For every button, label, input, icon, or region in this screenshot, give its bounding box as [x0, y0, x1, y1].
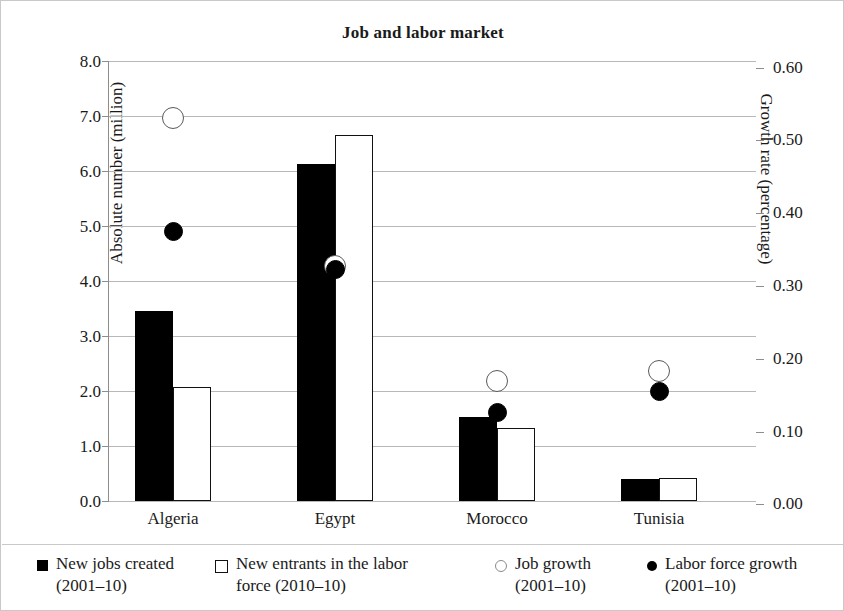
y-axis-tick-label-0: 0.0 [45, 493, 101, 510]
y-axis-tick-label-5: 5.0 [45, 218, 101, 235]
y2-axis-tick-030 [756, 286, 764, 287]
bar-new-jobs-morocco [459, 417, 497, 501]
legend-label-job-growth: Job growth (2001–10) [515, 553, 591, 597]
legend-label-labor-force-growth: Labor force growth (2001–10) [665, 553, 797, 597]
y-axis-tick-0 [102, 501, 109, 502]
y2-axis-tick-label-050: 0.50 [773, 131, 835, 148]
y-axis-tick-5 [102, 226, 109, 227]
y-axis-tick-label-3: 3.0 [45, 328, 101, 345]
gridline-8 [109, 61, 756, 62]
marker-labor-force-growth-morocco [488, 403, 507, 422]
y-axis-tick-label-6: 6.0 [45, 163, 101, 180]
y2-axis-tick-label-020: 0.20 [773, 350, 835, 367]
x-axis-label-tunisia: Tunisia [579, 509, 739, 529]
legend-item-job-growth: Job growth (2001–10) [495, 553, 591, 597]
x-axis-label-morocco: Morocco [417, 509, 577, 529]
x-axis-label-algeria: Algeria [93, 509, 253, 529]
y-axis-tick-6 [102, 171, 109, 172]
y-axis-tick-3 [102, 336, 109, 337]
legend-label-line2: (2001–10) [56, 576, 127, 595]
bar-new-entrants-algeria [173, 387, 211, 501]
legend-label-line1: New jobs created [56, 554, 174, 573]
y-axis-tick-4 [102, 281, 109, 282]
bar-new-jobs-tunisia [621, 479, 659, 501]
y-axis-tick-label-4: 4.0 [45, 273, 101, 290]
legend-label-new-jobs-created: New jobs created (2001–10) [56, 553, 174, 597]
legend-item-new-jobs-created: New jobs created (2001–10) [37, 553, 174, 597]
bar-new-jobs-algeria [135, 311, 173, 501]
gridline-5 [109, 226, 756, 227]
y2-axis-tick-label-010: 0.10 [773, 423, 835, 440]
marker-labor-force-growth-egypt [326, 260, 345, 279]
gridline-4 [109, 281, 756, 282]
y-axis-tick-label-1: 1.0 [45, 438, 101, 455]
marker-labor-force-growth-algeria [164, 222, 183, 241]
legend-label-line1: Job growth [515, 554, 591, 573]
legend-label-new-entrants: New entrants in the labor force (2010–10… [236, 553, 408, 597]
y-axis-tick-7 [102, 116, 109, 117]
bar-new-entrants-tunisia [659, 478, 697, 501]
legend-item-new-entrants: New entrants in the labor force (2010–10… [215, 553, 408, 597]
legend-label-line2: force (2010–10) [236, 576, 346, 595]
y-axis-tick-2 [102, 391, 109, 392]
legend-label-line2: (2001–10) [665, 576, 736, 595]
gridline-7 [109, 116, 756, 117]
y-axis-tick-8 [102, 61, 109, 62]
legend-label-line1: Labor force growth [665, 554, 797, 573]
legend-label-line2: (2001–10) [515, 576, 586, 595]
y2-axis-title: Growth rate (percentage) [756, 34, 776, 324]
chart-figure: Job and labor market 8.0 7.0 6.0 5.0 4.0… [0, 0, 844, 611]
y2-axis-tick-040 [756, 213, 764, 214]
y2-axis-tick-050 [756, 140, 764, 141]
y2-axis-tick-020 [756, 359, 764, 360]
marker-job-growth-tunisia [648, 360, 670, 382]
gridline-6 [109, 171, 756, 172]
marker-job-growth-morocco [486, 370, 508, 392]
gridline-0 [109, 501, 756, 502]
y2-axis-tick-000 [756, 504, 764, 505]
y-axis-tick-label-2: 2.0 [45, 383, 101, 400]
legend-label-line1: New entrants in the labor [236, 554, 408, 573]
y2-axis-tick-label-030: 0.30 [773, 277, 835, 294]
y-axis-tick-1 [102, 446, 109, 447]
marker-labor-force-growth-tunisia [650, 382, 669, 401]
open-square-icon [215, 560, 228, 573]
bar-new-entrants-egypt [335, 135, 373, 501]
y2-axis-tick-label-060: 0.60 [773, 59, 835, 76]
open-circle-icon [495, 560, 507, 572]
plot-area [109, 61, 756, 501]
y2-axis-tick-label-000: 0.00 [773, 495, 835, 512]
legend-item-labor-force-growth: Labor force growth (2001–10) [647, 553, 797, 597]
y-axis-tick-label-8: 8.0 [45, 53, 101, 70]
legend-divider [2, 544, 844, 545]
filled-circle-icon [647, 561, 657, 571]
y2-axis-tick-060 [756, 68, 764, 69]
y2-axis-tick-label-040: 0.40 [773, 204, 835, 221]
x-axis-label-egypt: Egypt [255, 509, 415, 529]
bar-new-jobs-egypt [297, 164, 335, 501]
y-axis-tick-label-7: 7.0 [45, 108, 101, 125]
y2-axis-tick-010 [756, 432, 764, 433]
marker-job-growth-algeria [162, 107, 184, 129]
gridline-3 [109, 336, 756, 337]
chart-title: Job and labor market [1, 23, 844, 43]
chart-legend: New jobs created (2001–10) New entrants … [1, 544, 844, 608]
filled-square-icon [37, 560, 48, 571]
bar-new-entrants-morocco [497, 428, 535, 501]
